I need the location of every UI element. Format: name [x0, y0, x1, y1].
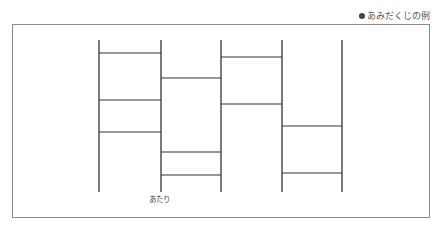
amidakuji-ladder	[0, 0, 440, 228]
result-label: あたり	[149, 193, 170, 204]
